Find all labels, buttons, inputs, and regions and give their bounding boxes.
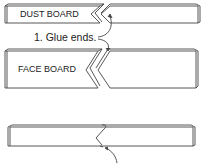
dust-board-label: DUST BOARD <box>20 9 79 19</box>
glue-ends-callout: 1. Glue ends. <box>34 31 96 43</box>
dust-board-right-piece <box>101 4 200 23</box>
face-board-label: FACE BOARD <box>18 64 76 74</box>
joint-arrow-bottom <box>105 147 117 163</box>
face-board-right-piece <box>96 49 198 88</box>
joined-board <box>8 125 195 147</box>
scarf-joint-diagram <box>0 0 206 163</box>
